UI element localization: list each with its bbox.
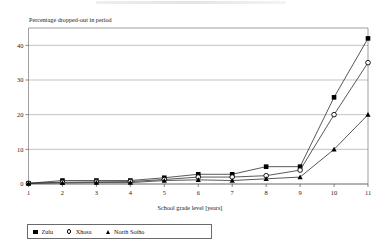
data-point-marker [264, 164, 269, 169]
y-tick-label: 20 [17, 111, 23, 118]
filled-triangle-icon [105, 228, 112, 235]
y-tick-label: 30 [17, 76, 23, 83]
x-tick-label: 8 [265, 189, 268, 196]
y-tick-label: 40 [17, 42, 23, 49]
series-xhosa [26, 60, 370, 185]
x-tick-label: 7 [231, 189, 235, 196]
legend-item-label: Zulu [42, 228, 54, 236]
legend-item-north-sotho[interactable]: North Sotho [105, 228, 145, 236]
x-tick-label: 6 [197, 189, 200, 196]
line-chart-figure: Percentage dropped-out in period 1234567… [0, 0, 380, 244]
x-tick-label: 9 [298, 189, 301, 196]
marker-glyph [67, 229, 72, 234]
legend-item-xhosa[interactable]: Xhosa [66, 228, 91, 236]
legend-item-label: Xhosa [76, 228, 92, 236]
open-circle-icon [66, 228, 73, 235]
data-series-layer [26, 36, 371, 186]
data-point-marker [332, 95, 337, 100]
series-line [29, 63, 369, 184]
data-point-marker [366, 60, 371, 65]
x-axis-title: School grade level [years] [0, 204, 380, 212]
x-tick-label: 5 [163, 189, 166, 196]
filled-square-icon [32, 228, 39, 235]
legend-item-zulu[interactable]: Zulu [32, 228, 53, 236]
plot-frame [29, 28, 369, 184]
data-point-marker [366, 36, 371, 41]
marker-glyph [106, 230, 110, 234]
x-tick-label: 4 [129, 189, 133, 196]
series-line [29, 38, 369, 183]
marker-glyph [33, 230, 38, 235]
series-zulu [26, 36, 370, 186]
y-axis-tick-labels: 010203040 [17, 42, 23, 188]
x-axis-tick-labels: 1234567891011 [27, 189, 371, 196]
x-tick-label: 10 [331, 189, 337, 196]
y-tick-label: 0 [20, 180, 23, 187]
chart-legend: ZuluXhosaNorth Sotho [27, 224, 212, 239]
y-tick-label: 10 [17, 146, 23, 153]
data-point-marker [298, 168, 303, 173]
legend-item-label: North Sotho [114, 228, 144, 236]
x-tick-label: 3 [95, 189, 98, 196]
y-axis-ticks [26, 45, 29, 184]
data-point-marker [332, 112, 337, 117]
x-tick-label: 11 [365, 189, 371, 196]
x-tick-label: 2 [61, 189, 64, 196]
x-tick-label: 1 [27, 189, 30, 196]
